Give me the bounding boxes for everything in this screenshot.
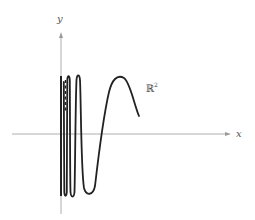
topologist-sine-curve-diagram: x y ℝ 2	[0, 0, 255, 220]
space-label-superscript: 2	[154, 81, 158, 88]
sine-curve	[64, 76, 139, 197]
space-label: ℝ 2	[146, 81, 158, 94]
x-axis-label: x	[236, 128, 242, 139]
x-axis	[12, 132, 231, 136]
x-axis-arrow-icon	[225, 132, 231, 136]
y-axis-arrow-icon	[59, 32, 63, 38]
y-axis-label: y	[56, 13, 63, 24]
